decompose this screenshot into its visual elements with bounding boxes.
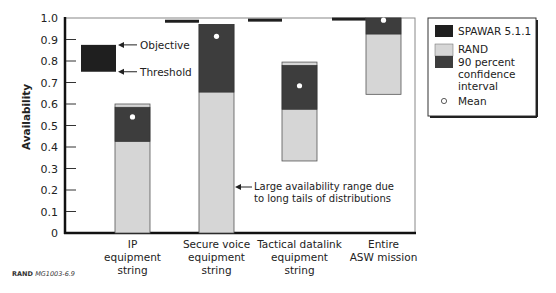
key-label: Objective xyxy=(140,39,190,51)
legend: SPAWAR 5.1.1 RAND 90 percentconfidencein… xyxy=(428,18,537,117)
x-tick-label: string xyxy=(117,264,147,276)
svg-text:to long tails of distributions: to long tails of distributions xyxy=(254,193,391,204)
x-tick-label: string xyxy=(201,264,231,276)
y-tick-label: 0.8 xyxy=(41,55,59,68)
bar-group xyxy=(115,104,150,233)
x-tick-labels: IPequipmentstringSecure voiceequipmentst… xyxy=(104,238,417,276)
x-tick-label: Secure voice xyxy=(183,238,250,250)
y-tick-label: 0.6 xyxy=(41,98,59,111)
mean-marker xyxy=(214,34,219,39)
objective-threshold-key: ObjectiveThreshold xyxy=(81,39,192,78)
availability-chart: 00.10.20.30.40.50.60.70.80.91.0 Availabi… xyxy=(0,0,556,293)
y-tick-label: 0.9 xyxy=(41,34,59,47)
ci-bar xyxy=(115,107,150,141)
y-tick-label: 1.0 xyxy=(41,12,59,25)
legend-mean-marker xyxy=(441,98,446,103)
y-axis-label: Availability xyxy=(20,84,32,150)
legend-swatch-ci xyxy=(435,56,453,68)
legend-label-rand: RAND xyxy=(458,43,488,55)
y-tick-label: 0.2 xyxy=(41,184,59,197)
x-tick-label: equipment xyxy=(104,251,161,263)
x-tick-label: IP xyxy=(128,238,137,250)
svg-text:Large availability range due: Large availability range due xyxy=(254,181,394,192)
mean-marker xyxy=(381,18,386,23)
y-tick-label: 0.7 xyxy=(41,77,59,90)
y-tick-label: 0.5 xyxy=(41,120,59,133)
x-tick-label: Entire xyxy=(368,238,399,250)
legend-swatch-rand xyxy=(435,44,453,56)
y-tick-label: 0 xyxy=(51,227,58,240)
spawar-bar xyxy=(332,18,366,21)
bar-group xyxy=(332,18,401,95)
y-ticks: 00.10.20.30.40.50.60.70.80.91.0 xyxy=(41,12,77,240)
x-tick-label: equipment xyxy=(188,251,245,263)
spawar-bar xyxy=(248,19,282,22)
y-tick-label: 0.4 xyxy=(41,141,59,154)
mean-marker xyxy=(297,83,302,88)
x-tick-label: equipment xyxy=(271,251,328,263)
x-tick-label: Tactical datalink xyxy=(256,238,343,250)
legend-swatch-spawar xyxy=(435,25,453,37)
y-tick-label: 0.1 xyxy=(41,206,59,219)
key-label: Threshold xyxy=(139,66,192,78)
bar-group xyxy=(248,19,317,161)
legend-label-mean: Mean xyxy=(458,95,487,107)
bar-group xyxy=(165,20,234,233)
spawar-bar xyxy=(165,20,199,23)
x-tick-label: ASW mission xyxy=(350,251,418,263)
mean-marker xyxy=(130,114,135,119)
y-tick-label: 0.3 xyxy=(41,163,59,176)
x-tick-label: string xyxy=(284,264,314,276)
legend-label-spawar: SPAWAR 5.1.1 xyxy=(458,25,531,37)
figure-credit: RAND MG1003-6.9 xyxy=(12,270,75,278)
annotation: Large availability range dueto long tail… xyxy=(235,181,394,204)
